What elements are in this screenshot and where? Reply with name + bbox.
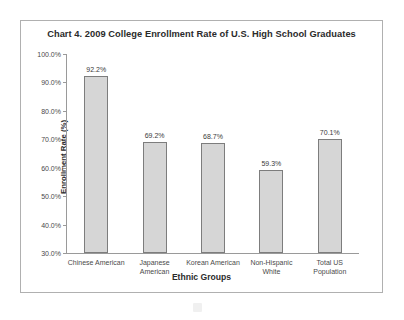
y-axis-tick-mark bbox=[63, 253, 67, 254]
bar-group[interactable]: 59.3%Non-HispanicWhite bbox=[259, 54, 283, 253]
bar-group[interactable]: 69.2%JapaneseAmerican bbox=[143, 54, 167, 253]
bar-group[interactable]: 92.2%Chinese American bbox=[84, 54, 108, 253]
bars-layer: 92.2%Chinese American69.2%JapaneseAmeric… bbox=[67, 54, 359, 253]
x-axis-category-line: Total US bbox=[295, 258, 365, 267]
y-axis-tick-label: 50.0% bbox=[41, 193, 61, 200]
chart-frame: Chart 4. 2009 College Enrollment Rate of… bbox=[20, 20, 383, 293]
plot-area: 100.0%90.0%80.0%70.0%60.0%50.0%40.0%30.0… bbox=[66, 54, 359, 254]
y-axis-tick-label: 80.0% bbox=[41, 107, 61, 114]
y-axis-tick-label: 90.0% bbox=[41, 79, 61, 86]
bar-group[interactable]: 68.7%Korean American bbox=[201, 54, 225, 253]
bar[interactable] bbox=[201, 143, 225, 253]
bar-value-label: 70.1% bbox=[320, 129, 340, 136]
bar[interactable] bbox=[143, 142, 167, 253]
chart-title: Chart 4. 2009 College Enrollment Rate of… bbox=[21, 29, 382, 39]
bar-value-label: 68.7% bbox=[203, 133, 223, 140]
scan-artifact bbox=[193, 303, 202, 312]
y-axis-tick-label: 100.0% bbox=[37, 51, 61, 58]
bar-value-label: 92.2% bbox=[86, 66, 106, 73]
bar-value-label: 59.3% bbox=[261, 160, 281, 167]
y-axis-tick-label: 60.0% bbox=[41, 164, 61, 171]
y-axis-tick-label: 40.0% bbox=[41, 221, 61, 228]
bar[interactable] bbox=[318, 139, 342, 253]
x-axis-title: Ethnic Groups bbox=[21, 272, 382, 282]
bar-value-label: 69.2% bbox=[145, 132, 165, 139]
bar[interactable] bbox=[84, 76, 108, 253]
y-axis-tick-label: 30.0% bbox=[41, 250, 61, 257]
y-axis-tick-label: 70.0% bbox=[41, 136, 61, 143]
bar-group[interactable]: 70.1%Total USPopulation bbox=[318, 54, 342, 253]
bar[interactable] bbox=[259, 170, 283, 253]
